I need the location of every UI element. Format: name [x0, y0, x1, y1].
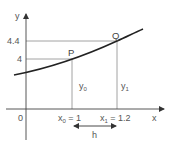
diagram-canvas: y x 0 4.4 4 P Q y0 y1 x0 = 1 x1 = 1.2 h	[0, 0, 171, 144]
x0-marker-label: x0 = 1	[58, 113, 81, 124]
y0-label: y0	[79, 81, 88, 92]
y-axis-label: y	[15, 11, 20, 21]
function-curve-smooth	[14, 29, 143, 75]
y-tick-4.4: 4.4	[7, 36, 20, 46]
origin-label: 0	[18, 113, 23, 123]
x-axis-label: x	[152, 113, 157, 123]
point-p-label: P	[68, 47, 74, 58]
y-tick-4: 4	[17, 54, 22, 64]
interval-h-label: h	[92, 130, 97, 140]
point-q-label: Q	[112, 30, 119, 41]
x1-marker-label: x1 = 1.2	[100, 113, 131, 124]
y1-label: y1	[121, 81, 130, 92]
